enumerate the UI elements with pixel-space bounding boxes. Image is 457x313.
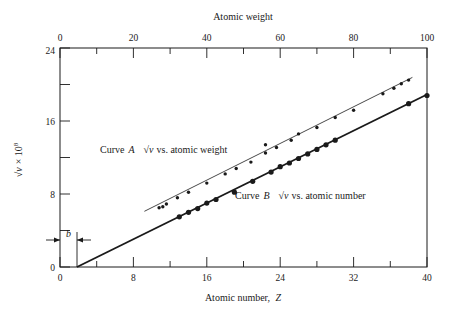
bottom-axis-title-symbol: Z — [276, 292, 282, 303]
intercept-marker-group: b — [46, 228, 91, 267]
top-axis-ticklabels: 0 20 40 60 80 100 — [58, 33, 435, 43]
top-ticklabel-0: 0 — [58, 33, 63, 43]
intercept-label-b: b — [66, 228, 71, 239]
plot-frame — [60, 48, 427, 267]
moseley-plot-figure: Atomic weight 0 20 40 60 — [0, 0, 457, 313]
y-axis-title-times: × 10 — [13, 146, 24, 164]
top-ticklabel-40: 40 — [202, 33, 212, 43]
chart-svg: Atomic weight 0 20 40 60 — [0, 0, 457, 313]
y-axis-title-nu: ν — [13, 167, 24, 172]
curve-b-label-nu: ν — [284, 190, 289, 201]
curve-b-label: CurveB√νvs. atomic number — [235, 190, 366, 201]
bottom-ticklabel-0: 0 — [58, 273, 63, 283]
y-ticklabel-16: 16 — [46, 117, 56, 127]
intercept-arrow-left-head — [54, 238, 60, 243]
bottom-ticklabel-16: 16 — [202, 273, 212, 283]
y-axis-ticklabels: 0 8 16 24 — [46, 46, 56, 273]
y-ticklabel-8: 8 — [50, 190, 55, 200]
curve-a-label: CurveA√νvs. atomic weight — [100, 144, 228, 155]
curve-b-label-main: vs. atomic number — [292, 190, 367, 201]
curve-b-label-letter: B — [263, 190, 269, 201]
y-ticklabel-24: 24 — [46, 46, 56, 56]
y-ticklabel-0: 0 — [50, 263, 55, 273]
y-axis-title: √ν× 108 — [12, 142, 24, 177]
curve-a-label-nu: ν — [149, 144, 154, 155]
y-axis-title-exponent: 8 — [12, 142, 20, 146]
bottom-ticklabel-32: 32 — [349, 273, 359, 283]
curve-a-label-prefix: Curve — [100, 144, 125, 155]
bottom-ticklabel-8: 8 — [131, 273, 136, 283]
bottom-ticklabel-24: 24 — [275, 273, 285, 283]
top-ticklabel-60: 60 — [275, 33, 285, 43]
bottom-axis-group: 0 8 16 24 32 40 Atomic number, Z — [58, 257, 432, 303]
bottom-axis-ticklabels: 0 8 16 24 32 40 — [58, 273, 432, 283]
top-axis-group: Atomic weight 0 20 40 60 — [58, 11, 435, 58]
curve-b-label-prefix: Curve — [235, 190, 260, 201]
curve-a-label-main: vs. atomic weight — [157, 144, 228, 155]
top-ticklabel-100: 100 — [420, 33, 435, 43]
bottom-axis-minor-ticks — [97, 261, 391, 267]
bottom-axis-title: Atomic number, Z — [205, 292, 282, 303]
top-ticklabel-20: 20 — [129, 33, 139, 43]
curve-a-label-letter: A — [127, 144, 135, 155]
y-axis-group: 0 8 16 24 √ν× 108 — [12, 46, 70, 273]
y-axis-title-group: √ν× 108 — [12, 142, 24, 177]
top-axis-title: Atomic weight — [213, 11, 273, 22]
bottom-ticklabel-40: 40 — [422, 273, 432, 283]
bottom-axis-title-main: Atomic number, — [205, 292, 270, 303]
top-axis-minor-ticks — [97, 48, 391, 54]
intercept-arrow-right-head — [77, 238, 83, 243]
top-ticklabel-80: 80 — [349, 33, 359, 43]
curve-b-group — [77, 93, 430, 267]
